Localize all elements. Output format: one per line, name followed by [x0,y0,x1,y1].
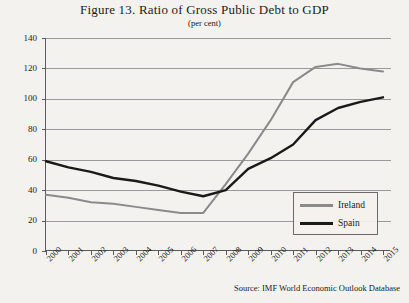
legend-swatch-spain [300,222,333,225]
source-note: Source: IMF World Economic Outlook Datab… [0,283,400,293]
legend-item-ireland[interactable]: Ireland [300,199,374,211]
y-axis-label: 20 [3,216,37,225]
y-axis-label: 140 [3,34,37,43]
y-axis-label: 0 [3,247,37,256]
chart-subtitle: (per cent) [0,18,409,28]
legend-swatch-ireland [300,204,333,207]
y-axis-label: 80 [3,125,37,134]
y-axis-label: 100 [3,94,37,103]
legend: Ireland Spain [293,192,378,235]
y-axis-label: 60 [3,155,37,164]
figure-container: Figure 13. Ratio of Gross Public Debt to… [0,0,409,303]
y-axis-label: 40 [3,186,37,195]
series-line-ireland [46,64,383,213]
chart-title: Figure 13. Ratio of Gross Public Debt to… [0,2,409,18]
series-line-spain [46,97,383,196]
legend-label-spain: Spain [338,217,360,229]
legend-label-ireland: Ireland [338,199,365,211]
y-axis-label: 120 [3,64,37,73]
legend-item-spain[interactable]: Spain [300,217,374,229]
